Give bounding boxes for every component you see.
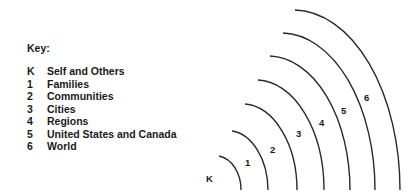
ring-label-5: 5 bbox=[341, 105, 347, 116]
ring-label-6: 6 bbox=[364, 92, 369, 103]
arc-k bbox=[219, 156, 241, 190]
ring-label-2: 2 bbox=[270, 144, 275, 155]
ring-label-3: 3 bbox=[296, 128, 301, 139]
arc-3 bbox=[258, 80, 324, 190]
ring-label-4: 4 bbox=[319, 117, 325, 128]
arc-5 bbox=[283, 33, 375, 190]
ring-label-1: 1 bbox=[245, 157, 251, 168]
arc-6 bbox=[295, 10, 400, 190]
ring-label-k: K bbox=[206, 173, 213, 184]
concentric-arcs-diagram: K 1 2 3 4 5 6 bbox=[0, 0, 420, 196]
